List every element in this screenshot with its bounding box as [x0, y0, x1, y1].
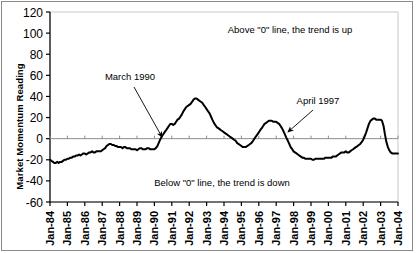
- x-axis-tick-label: Jan-96: [253, 211, 265, 246]
- y-axis-tick-label: 80: [30, 48, 44, 62]
- x-axis-tick-label: Jan-01: [340, 211, 352, 246]
- x-axis-tick-label: Jan-02: [357, 211, 369, 246]
- y-axis-tick-label: 100: [23, 27, 43, 41]
- x-axis-tick-label: Jan-00: [322, 211, 334, 246]
- annotation-below-zero: Below "0" line, the trend is down: [154, 177, 290, 188]
- x-axis-tick-label: Jan-88: [114, 211, 126, 246]
- x-axis-tick-label: Jan-86: [79, 211, 91, 246]
- y-axis-tick-label: 40: [30, 90, 44, 104]
- x-axis-tick-label: Jan-04: [392, 210, 404, 246]
- y-axis-tick-label: 120: [23, 6, 43, 20]
- y-axis-tick-label: 60: [30, 69, 44, 83]
- x-axis-tick-label: Jan-92: [183, 211, 195, 246]
- plot-area: [50, 12, 398, 202]
- x-axis-tick-label: Jan-94: [218, 210, 230, 246]
- x-axis-tick-label: Jan-93: [201, 211, 213, 246]
- x-axis-tick-label: Jan-89: [131, 211, 143, 246]
- chart-container: Market Momentum Reading -60-40-200204060…: [0, 0, 416, 253]
- x-axis-tick-label: Jan-87: [96, 211, 108, 246]
- x-axis-tick-label: Jan-97: [270, 211, 282, 246]
- y-axis-tick-label: 20: [30, 111, 44, 125]
- annotation-march-1990: March 1990: [105, 71, 155, 82]
- x-axis-tick-label: Jan-98: [288, 211, 300, 246]
- x-axis-tick-label: Jan-90: [148, 211, 160, 246]
- chart-plot-svg: -60-40-20020406080100120Jan-84Jan-85Jan-…: [0, 0, 416, 253]
- x-axis-tick-label: Jan-85: [61, 211, 73, 246]
- x-axis-tick-label: Jan-03: [375, 211, 387, 246]
- y-axis-tick-label: -60: [26, 196, 44, 210]
- x-axis-tick-label: Jan-91: [166, 211, 178, 246]
- y-axis-tick-label: -20: [26, 153, 44, 167]
- y-axis-tick-label: -40: [26, 174, 44, 188]
- x-axis-tick-label: Jan-99: [305, 211, 317, 246]
- annotation-above-zero: Above "0" line, the trend is up: [228, 24, 353, 35]
- annotation-april-1997: April 1997: [297, 95, 340, 106]
- x-axis-tick-label: Jan-95: [235, 211, 247, 246]
- y-axis-tick-label: 0: [36, 132, 43, 146]
- x-axis-tick-label: Jan-84: [44, 210, 56, 246]
